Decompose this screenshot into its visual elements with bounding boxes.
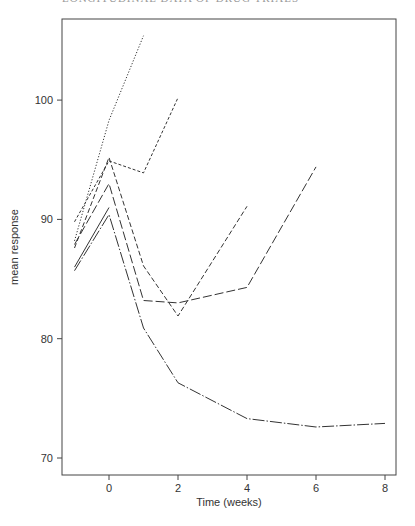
series-1-line [75,36,144,241]
plot-frame [62,19,396,475]
y-axis-title: mean response [8,209,20,285]
series-2-line [75,98,179,222]
x-tick-label: 6 [313,482,319,494]
y-tick-label: 70 [41,452,53,464]
x-axis-title: Time (weeks) [196,496,262,508]
series-6-line [75,215,386,427]
series-3-line [75,157,248,316]
x-tick-label: 0 [106,482,112,494]
series-4-line [75,167,317,303]
y-axis: 708090100 [35,94,62,464]
y-tick-label: 100 [35,94,53,106]
y-tick-label: 80 [41,333,53,345]
x-axis: 02468 [106,475,388,494]
series-5-line [75,208,110,268]
x-tick-label: 8 [382,482,388,494]
line-chart: 708090100 02468 Time (weeks) mean respon… [0,0,415,526]
data-lines [75,36,386,427]
y-tick-label: 90 [41,213,53,225]
x-tick-label: 2 [175,482,181,494]
x-tick-label: 4 [244,482,250,494]
